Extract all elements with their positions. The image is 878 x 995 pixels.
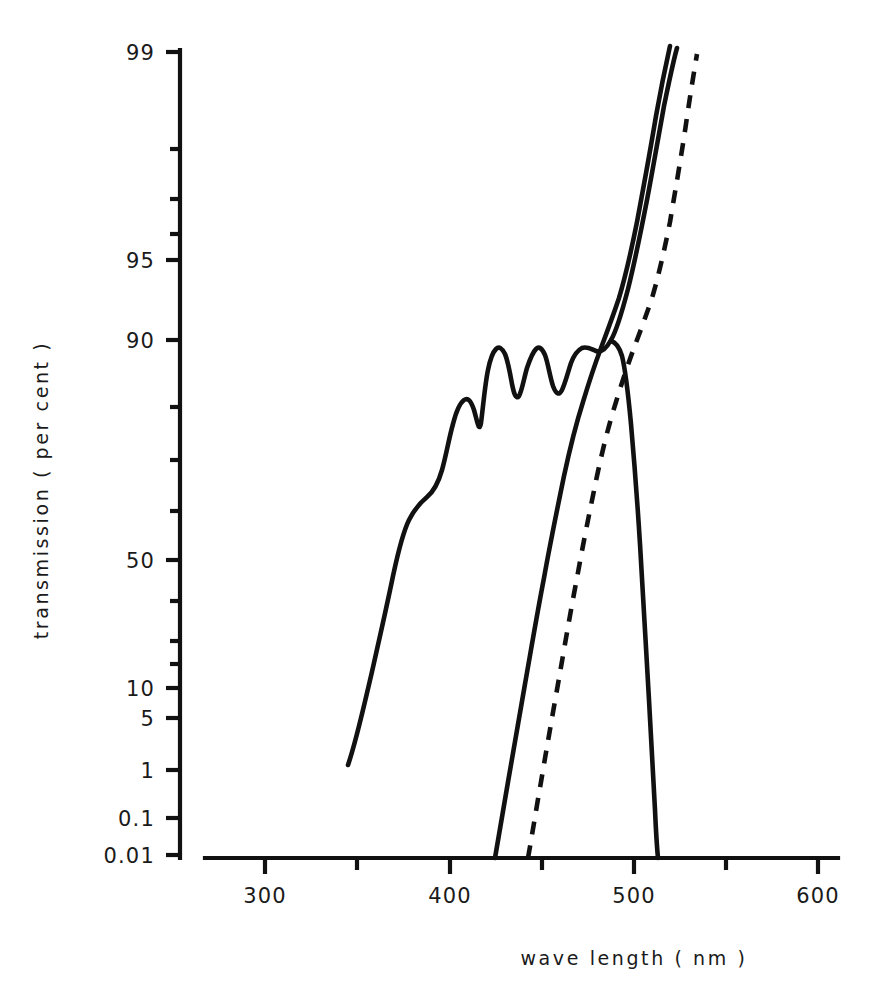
y-tick-label-1: 1 xyxy=(140,759,155,783)
y-tick-label-10: 10 xyxy=(126,677,155,701)
x-tick-label-500: 500 xyxy=(612,884,656,908)
x-tick-label-400: 400 xyxy=(428,884,472,908)
figure-container: 99 95 90 50 10 5 1 0.1 0.01 300 400 500 … xyxy=(0,0,878,995)
y-tick-label-95: 95 xyxy=(126,249,155,273)
y-tick-label-0.01: 0.01 xyxy=(103,844,155,868)
y-tick-label-0.1: 0.1 xyxy=(118,807,155,831)
y-tick-label-90: 90 xyxy=(126,329,155,353)
y-axis-title: transmission ( per cent ) xyxy=(30,341,52,640)
y-tick-label-50: 50 xyxy=(126,549,155,573)
transmission-spectrum-chart: 99 95 90 50 10 5 1 0.1 0.01 300 400 500 … xyxy=(0,0,878,995)
y-tick-label-5: 5 xyxy=(140,707,155,731)
x-tick-label-600: 600 xyxy=(796,884,840,908)
x-tick-label-300: 300 xyxy=(243,884,287,908)
y-tick-label-99: 99 xyxy=(126,41,155,65)
x-axis-title: wave length ( nm ) xyxy=(520,947,747,969)
